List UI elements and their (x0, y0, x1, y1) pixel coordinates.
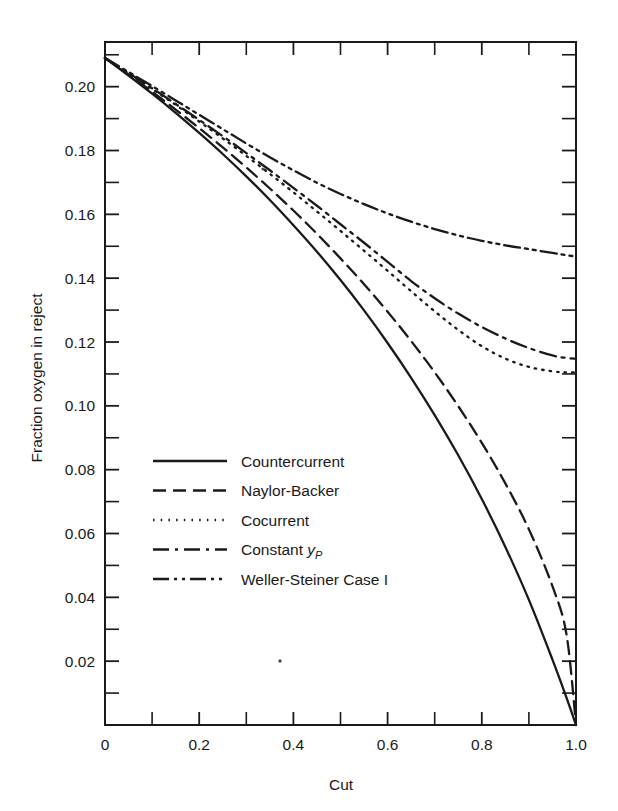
x-axis-ticks (105, 712, 576, 725)
x-tick-label: 0 (101, 736, 110, 753)
x-tick-label: 0.2 (188, 736, 210, 753)
page-specks (261, 167, 281, 662)
y-tick-label: 0.20 (65, 78, 96, 95)
y-tick-label: 0.14 (65, 270, 96, 287)
x-tick-label: 0.4 (283, 736, 305, 753)
x-axis-tick-labels: 00.20.40.60.81.0 (101, 736, 587, 753)
legend-label-3: Cocurrent (241, 512, 310, 529)
curve-naylor-backer (105, 58, 576, 725)
data-curves (105, 58, 576, 725)
y-tick-label: 0.10 (65, 397, 96, 414)
x-tick-label: 1.0 (565, 736, 587, 753)
y-tick-label: 0.04 (65, 589, 96, 606)
figure-container: 00.20.40.60.81.0 0.020.040.060.080.100.1… (0, 0, 618, 811)
y-tick-label: 0.06 (65, 525, 95, 542)
x-axis-title: Cut (329, 776, 354, 793)
legend-label-4: Constant yP (241, 541, 323, 561)
top-axis-ticks (105, 42, 576, 55)
x-tick-label: 0.8 (471, 736, 493, 753)
curve-weller-steiner-case-i (105, 58, 576, 257)
legend-label-2: Naylor-Backer (241, 482, 339, 499)
plot-frame (105, 42, 576, 725)
chart-legend: CountercurrentNaylor-BackerCocurrentCons… (153, 453, 388, 588)
x-tick-label: 0.6 (377, 736, 399, 753)
y-tick-label: 0.12 (65, 334, 95, 351)
y-tick-label: 0.18 (65, 142, 95, 159)
plot-border (105, 42, 576, 725)
curve-countercurrent (105, 58, 576, 725)
y-tick-label: 0.16 (65, 206, 95, 223)
y-axis-title: Fraction oxygen in reject (28, 293, 45, 463)
y-tick-label: 0.08 (65, 461, 95, 478)
artifact-speck (261, 167, 264, 170)
oxygen-reject-vs-cut-chart: 00.20.40.60.81.0 0.020.040.060.080.100.1… (0, 0, 618, 811)
right-axis-ticks (562, 55, 576, 693)
legend-label-5: Weller-Steiner Case I (241, 571, 388, 588)
curve-constant-y-p (105, 58, 576, 359)
y-axis-ticks (105, 55, 119, 693)
y-axis-tick-labels: 0.020.040.060.080.100.120.140.160.180.20 (65, 78, 96, 669)
artifact-speck (278, 659, 281, 662)
legend-label-1: Countercurrent (241, 453, 345, 470)
y-tick-label: 0.02 (65, 653, 95, 670)
